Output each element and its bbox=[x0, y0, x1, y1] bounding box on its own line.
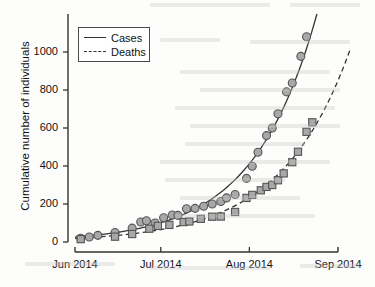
data-point-deaths bbox=[303, 128, 310, 135]
data-point-deaths bbox=[309, 119, 316, 126]
chart-figure: Cumulative number of individuals 0200400… bbox=[0, 0, 375, 287]
legend-line-sample-solid bbox=[84, 33, 106, 43]
data-point-deaths bbox=[111, 233, 118, 240]
data-point-deaths bbox=[217, 213, 224, 220]
data-point-deaths bbox=[209, 213, 216, 220]
data-point-deaths bbox=[154, 222, 161, 229]
data-point-cases bbox=[191, 204, 199, 212]
data-point-cases bbox=[274, 110, 282, 118]
legend-entry-cases: Cases bbox=[84, 31, 142, 45]
data-point-cases bbox=[248, 162, 256, 170]
data-point-deaths bbox=[77, 236, 84, 243]
data-point-cases bbox=[208, 200, 216, 208]
y-tick-label: 1000 bbox=[18, 45, 58, 57]
data-point-deaths bbox=[294, 148, 301, 155]
y-tick-label: 600 bbox=[18, 121, 58, 133]
data-point-deaths bbox=[166, 221, 173, 228]
data-point-deaths bbox=[197, 215, 204, 222]
data-point-cases bbox=[94, 231, 102, 239]
data-point-cases bbox=[297, 52, 305, 60]
y-tick-label: 800 bbox=[18, 83, 58, 95]
x-tick-label: Aug 2014 bbox=[214, 258, 284, 270]
chart-legend: Cases Deaths bbox=[78, 27, 150, 62]
data-point-cases bbox=[288, 79, 296, 87]
data-point-cases bbox=[283, 88, 291, 96]
data-point-cases bbox=[268, 124, 276, 132]
data-point-deaths bbox=[289, 159, 296, 166]
legend-entry-deaths: Deaths bbox=[84, 45, 146, 59]
y-tick-label: 0 bbox=[18, 235, 58, 247]
data-point-deaths bbox=[231, 208, 238, 215]
legend-label-cases: Cases bbox=[111, 32, 142, 44]
x-tick-label: Jul 2014 bbox=[126, 258, 196, 270]
data-point-deaths bbox=[129, 230, 136, 237]
data-point-cases bbox=[142, 217, 150, 225]
data-point-deaths bbox=[274, 177, 281, 184]
data-point-deaths bbox=[146, 225, 153, 232]
data-point-cases bbox=[231, 191, 239, 199]
data-point-cases bbox=[223, 194, 231, 202]
x-tick-label: Jun 2014 bbox=[40, 258, 110, 270]
trend-line-deaths bbox=[75, 48, 351, 238]
data-point-cases bbox=[85, 233, 93, 241]
x-tick-label: Sep 2014 bbox=[303, 258, 373, 270]
data-point-cases bbox=[254, 148, 262, 156]
data-point-deaths bbox=[249, 191, 256, 198]
data-point-deaths bbox=[186, 218, 193, 225]
legend-label-deaths: Deaths bbox=[111, 46, 146, 58]
data-point-cases bbox=[263, 132, 271, 140]
y-tick-label: 200 bbox=[18, 197, 58, 209]
data-point-cases bbox=[160, 214, 168, 222]
data-point-cases bbox=[200, 202, 208, 210]
data-point-cases bbox=[182, 205, 190, 213]
legend-line-sample-dashed bbox=[84, 47, 106, 57]
data-point-cases bbox=[303, 33, 311, 41]
data-point-cases bbox=[243, 174, 251, 182]
data-point-deaths bbox=[280, 170, 287, 177]
y-tick-label: 400 bbox=[18, 159, 58, 171]
